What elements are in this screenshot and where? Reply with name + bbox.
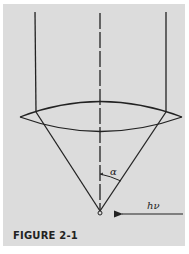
lens-top-surface — [20, 102, 182, 118]
right-cone-line — [100, 112, 166, 211]
left-cone-line — [36, 112, 100, 211]
photon-label: hν — [147, 200, 160, 211]
left-beam-line — [35, 12, 36, 112]
figure-caption: FIGURE 2-1 — [13, 230, 78, 241]
angle-label: α — [110, 166, 117, 177]
lens-focusing-diagram: α hν — [0, 0, 189, 254]
focal-point-icon — [98, 211, 102, 215]
